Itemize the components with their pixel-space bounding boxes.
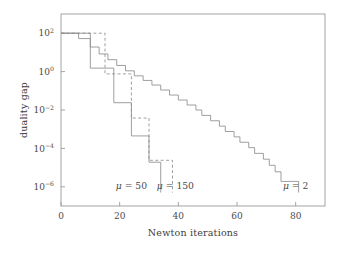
y-tick-label: 10−4 [33, 142, 54, 154]
mu-value: = 2 [289, 180, 308, 191]
mu-value: = 50 [122, 180, 147, 191]
duality-gap-chart: 020406080 10210010−210−410−6 μ = 50μ = 1… [0, 0, 337, 254]
y-tick-label: 102 [39, 27, 54, 39]
x-tick-label: 40 [173, 211, 185, 221]
y-tick-exponent: −2 [45, 104, 54, 111]
y-tick-exponent: 2 [50, 27, 54, 34]
axes-frame [61, 14, 325, 206]
mu-value: = 150 [163, 180, 194, 191]
y-tick-exponent: 0 [50, 65, 54, 72]
y-tick-label: 100 [39, 65, 54, 77]
y-axis-title: duality gap [18, 82, 29, 138]
chart-figure: 020406080 10210010−210−410−6 μ = 50μ = 1… [0, 0, 337, 254]
x-tick-label: 80 [290, 211, 302, 221]
curve-annotation-2: μ = 2 [283, 180, 308, 191]
y-tick-label: 10−6 [33, 180, 54, 192]
series-curve-mu-2 [61, 33, 299, 192]
x-tick-label: 60 [231, 211, 243, 221]
y-tick-label: 10−2 [33, 104, 54, 116]
curve-annotations: μ = 50μ = 150μ = 2 [116, 180, 309, 191]
x-tick-label: 0 [58, 211, 64, 221]
y-axis-ticks: 10210010−210−410−6 [33, 27, 65, 192]
x-axis-title: Newton iterations [148, 227, 238, 238]
y-tick-exponent: −4 [45, 142, 54, 149]
series-curve-mu-150 [61, 33, 172, 192]
x-tick-label: 20 [114, 211, 126, 221]
x-axis-ticks: 020406080 [58, 202, 302, 221]
curve-annotation-1: μ = 150 [157, 180, 194, 191]
data-series-group [61, 33, 299, 192]
y-tick-exponent: −6 [45, 180, 54, 187]
curve-annotation-0: μ = 50 [116, 180, 147, 191]
series-curve-mu-50 [61, 33, 161, 192]
plot-frame [61, 14, 325, 206]
